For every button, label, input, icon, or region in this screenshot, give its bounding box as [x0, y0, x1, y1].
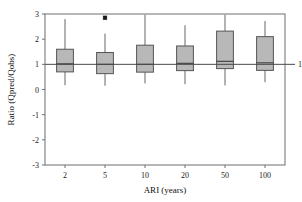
y-axis-tick-label: 0 [35, 86, 39, 95]
y-axis-tick-label: -1 [32, 111, 39, 120]
boxplot-group-20 [177, 25, 194, 84]
boxplot-group-100 [257, 21, 274, 82]
box-body [257, 37, 274, 71]
y-axis-tick-label: -3 [32, 161, 39, 170]
y-axis-tick-label: 1 [35, 60, 39, 69]
y-axis-tick-label: -2 [32, 136, 39, 145]
y-axis-title: Ratio (Qpred/Qobs) [6, 54, 16, 126]
outlier-marker [103, 16, 107, 20]
boxplot-group-50 [217, 15, 234, 86]
x-axis-title: ARI (years) [144, 185, 187, 195]
x-axis-tick-label: 20 [181, 171, 189, 180]
boxplot-figure: 3210-1-2-3Ratio (Qpred/Qobs)25102050100A… [0, 0, 302, 202]
x-axis-tick-label: 50 [221, 171, 229, 180]
x-axis-tick-label: 5 [103, 171, 107, 180]
x-axis-tick-label: 10 [141, 171, 149, 180]
box-body [177, 46, 194, 71]
x-axis-tick-label: 2 [63, 171, 67, 180]
plot-frame [45, 14, 285, 165]
y-axis-tick-label: 3 [35, 10, 39, 19]
box-body [57, 49, 74, 72]
chart-canvas: 3210-1-2-3Ratio (Qpred/Qobs)25102050100A… [0, 0, 302, 202]
box-body [217, 31, 234, 68]
box-body [137, 45, 154, 72]
boxplot-group-2 [57, 19, 74, 85]
y-axis-tick-label: 2 [35, 35, 39, 44]
boxplot-group-10 [137, 15, 154, 84]
boxplot-group-5 [97, 16, 114, 86]
reference-line-label: 1 [298, 60, 302, 69]
box-body [97, 53, 114, 74]
x-axis-tick-label: 100 [259, 171, 271, 180]
